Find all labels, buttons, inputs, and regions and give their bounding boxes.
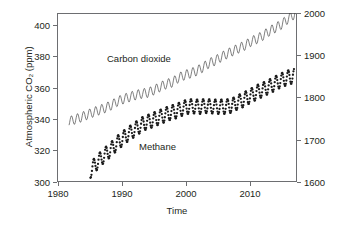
x-axis-title: Time	[57, 206, 297, 216]
y-tick-340	[53, 119, 57, 120]
x-tick-2010	[250, 182, 251, 186]
y-ticklabel-340: 340	[34, 115, 50, 125]
y-tick-320	[53, 150, 57, 151]
methane-label: Methane	[139, 142, 176, 152]
y2-ticklabel-2000: 2000	[304, 9, 325, 19]
carbon-dioxide-label: Carbon dioxide	[107, 54, 171, 64]
y2-ticklabel-1900: 1900	[304, 51, 325, 61]
x-ticklabel-1990: 1990	[104, 189, 140, 199]
y2-ticklabel-1600: 1600	[304, 178, 325, 188]
co2-methane-chart: 300 320 340 360 380 400 1600 1700 1800 1…	[0, 0, 361, 227]
x-tick-1990	[122, 182, 123, 186]
y2-ticklabel-1800: 1800	[304, 93, 325, 103]
x-tick-1980	[58, 182, 59, 186]
y2-tick-1900	[297, 55, 301, 56]
y-ticklabel-400: 400	[34, 21, 50, 31]
x-tick-2000	[186, 182, 187, 186]
y2-tick-2000	[297, 13, 301, 14]
y-tick-380	[53, 56, 57, 57]
y-tick-400	[53, 25, 57, 26]
y2-tick-1700	[297, 140, 301, 141]
plot-area	[57, 13, 297, 182]
y-ticklabel-300: 300	[34, 178, 50, 188]
x-ticklabel-1980: 1980	[40, 189, 76, 199]
x-ticklabel-2010: 2010	[232, 189, 268, 199]
y2-tick-1800	[297, 97, 301, 98]
y-tick-360	[53, 88, 57, 89]
y-tick-300	[53, 182, 57, 183]
methane-series	[89, 68, 295, 179]
y-ticklabel-380: 380	[34, 52, 50, 62]
y2-tick-1600	[297, 182, 301, 183]
y-ticklabel-320: 320	[34, 146, 50, 156]
y2-ticklabel-1700: 1700	[304, 136, 325, 146]
y-axis-title: Atmospheric CO₂ (ppm)	[24, 12, 34, 182]
y-ticklabel-360: 360	[34, 84, 50, 94]
carbon-dioxide-series	[69, 13, 295, 125]
x-ticklabel-2000: 2000	[168, 189, 204, 199]
